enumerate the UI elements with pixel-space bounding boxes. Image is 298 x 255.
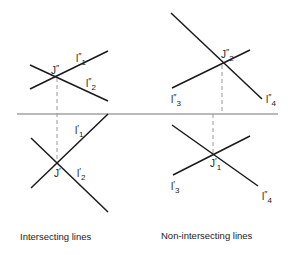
label-sub: 1	[79, 130, 83, 139]
diagram-canvas	[0, 0, 298, 255]
label-sub: 2	[229, 54, 233, 63]
label-l4-double-prime-top: l″4	[266, 93, 276, 108]
label-l1-prime: l′1	[75, 124, 83, 139]
label-sub: 2	[81, 173, 85, 182]
caption-intersecting: Intersecting lines	[20, 231, 91, 242]
label-sub: 3	[175, 186, 179, 195]
label-j1-prime: J′1	[210, 157, 221, 172]
label-sub: 1	[217, 163, 221, 172]
label-j-double-prime: J″	[51, 64, 59, 76]
label-sub: 1	[81, 58, 85, 67]
label-prime: ′	[59, 166, 61, 176]
label-l4-bottom: l″4	[262, 190, 272, 205]
label-sub: 4	[267, 196, 271, 205]
label-l1-double-prime: l″1	[76, 52, 86, 67]
line-l2-prime	[31, 138, 108, 212]
label-l2-double-prime: l″2	[86, 77, 96, 92]
label-j-prime: J′	[54, 167, 61, 179]
label-l3-double-prime: l″3	[171, 93, 181, 108]
line-l3-double-prime	[172, 50, 250, 88]
label-prime: ″	[56, 63, 59, 73]
label-l3-prime: l′3	[171, 180, 179, 195]
label-j2-double-prime: J″2	[221, 48, 234, 63]
label-sub: 2	[91, 83, 95, 92]
line-l1-prime	[31, 114, 108, 188]
label-l2-prime: l′2	[77, 167, 85, 182]
line-l4-double-prime-top	[171, 13, 262, 99]
label-sub: 3	[176, 99, 180, 108]
caption-non-intersecting: Non-intersecting lines	[161, 230, 252, 241]
label-sub: 4	[271, 99, 275, 108]
descriptive-geometry-diagram: l″1 J″ l″2 l′1 J′ l′2 J″2 l″3 l″4 J′1 l′…	[0, 0, 298, 255]
